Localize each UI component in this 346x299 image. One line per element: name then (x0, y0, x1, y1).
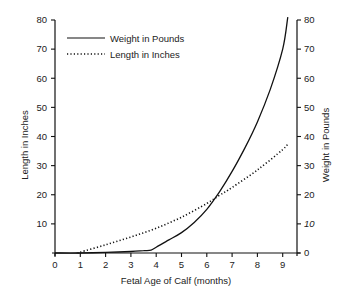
left-tick-label: 50 (36, 102, 47, 113)
x-axis-ticks: 0123456789 (52, 253, 285, 270)
x-tick-label: 2 (103, 259, 108, 270)
legend-label-length: Length in Inches (110, 49, 180, 60)
right-tick-label: 30 (304, 160, 315, 171)
left-tick-label: 60 (36, 73, 47, 84)
length-line (77, 144, 287, 253)
left-tick-label: 30 (36, 160, 47, 171)
x-tick-label: 3 (128, 259, 133, 270)
right-axis-ticks: 80706050403020100 (297, 14, 315, 258)
x-tick-label: 9 (280, 259, 285, 270)
x-axis-title: Fetal Age of Calf (months) (121, 275, 231, 286)
right-tick-label: 10 (304, 218, 315, 229)
x-tick-label: 7 (229, 259, 234, 270)
legend-label-weight: Weight in Pounds (110, 33, 185, 44)
x-tick-label: 6 (204, 259, 209, 270)
x-tick-label: 0 (52, 259, 57, 270)
right-tick-label: 70 (304, 43, 315, 54)
left-tick-label: 70 (36, 43, 47, 54)
x-tick-label: 8 (255, 259, 260, 270)
right-tick-label: 60 (304, 73, 315, 84)
x-tick-label: 5 (179, 259, 184, 270)
x-tick-label: 4 (154, 259, 159, 270)
left-tick-label: 10 (36, 218, 47, 229)
legend: Weight in Pounds Length in Inches (67, 33, 185, 60)
x-tick-label: 1 (78, 259, 83, 270)
left-tick-label: 80 (36, 14, 47, 25)
right-tick-label: 50 (304, 102, 315, 113)
right-tick-label: 40 (304, 131, 315, 142)
left-tick-label: 40 (36, 131, 47, 142)
right-tick-label: 80 (304, 14, 315, 25)
left-axis-title: Length in Inches (19, 110, 30, 180)
chart: 8070605040302010 80706050403020100 01234… (0, 0, 346, 299)
left-axis-ticks: 8070605040302010 (36, 14, 55, 229)
right-axis-title: Weight in Pounds (320, 108, 331, 183)
right-tick-label: 0 (304, 247, 309, 258)
right-tick-label: 20 (304, 189, 315, 200)
left-tick-label: 20 (36, 189, 47, 200)
